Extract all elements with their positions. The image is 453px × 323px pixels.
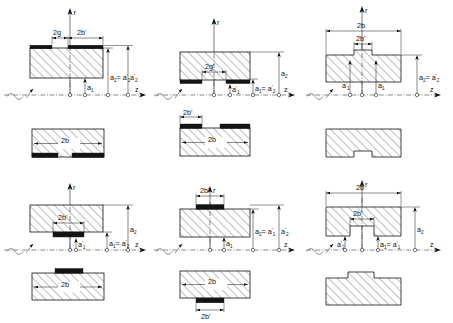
z-axis-arrow — [288, 248, 295, 253]
axis-node — [251, 248, 254, 251]
z-axis-label: z — [135, 85, 139, 94]
dim-2bprime-label: 2b' — [183, 108, 193, 117]
axis-node — [343, 248, 346, 251]
a2-label: a2 — [281, 69, 288, 79]
r-axis-label: r — [74, 8, 77, 17]
axis-node — [360, 248, 363, 251]
axis-node — [105, 248, 108, 251]
ac-source-icon — [156, 89, 182, 100]
a1prime-label: a'1 — [232, 85, 240, 95]
axis-node — [222, 248, 225, 251]
electrode-center — [53, 232, 84, 237]
electrode-left — [32, 153, 58, 158]
a2-eq-a1prime-label: a2= a'1 — [255, 227, 276, 237]
inner-2b-label: 2b — [61, 136, 69, 145]
axis-node — [68, 248, 71, 251]
figure-sheet: r z 2g 2b' a1 a2= a'1 a'2 r — [0, 0, 453, 323]
panel-r4c2: 2b 2b' — [152, 263, 304, 323]
a1-eq-a1prime-label: a1= a'1 — [380, 240, 401, 250]
a1-eq-a2prime-label: a1= a'2 — [255, 84, 276, 94]
r-axis-label: r — [213, 186, 216, 195]
axis-node — [126, 93, 129, 96]
panel-r4c3 — [304, 263, 453, 323]
ac-source-icon — [7, 244, 33, 255]
dim-2bprime-label: 2b' — [200, 186, 210, 195]
axis-node — [376, 248, 379, 251]
panel-r2c3 — [304, 112, 453, 177]
panel-r3c2: r z 2b' a1 a2= a'1 a'2 — [152, 172, 304, 267]
inner-2b-label: 2b — [208, 135, 216, 144]
r-axis-label: r — [217, 18, 220, 27]
panel-r1c1: r z 2g 2b' a1 a2= a'1 a'2 — [0, 0, 152, 112]
axis-node — [277, 93, 280, 96]
axis-node — [83, 93, 86, 96]
a2-eq-a2prime-label: a2= a'2 — [419, 73, 440, 83]
body-hatch — [326, 272, 401, 305]
panel-r3c1: r z 2b' a'1 a1= a'2 a2 — [0, 177, 152, 267]
dim-2bprime-label: 2b' — [77, 28, 87, 37]
axis-node — [106, 93, 109, 96]
a1-label: a1 — [378, 81, 385, 91]
a2prime-label: a'2 — [337, 240, 345, 250]
electrode-left — [30, 45, 52, 49]
axis-node — [415, 93, 418, 96]
electrode-left — [180, 80, 202, 84]
axis-node — [228, 93, 231, 96]
z-axis-label: z — [430, 240, 434, 249]
axis-node — [68, 93, 71, 96]
a2prime-label: a'2 — [130, 73, 138, 83]
axis-node — [208, 248, 211, 251]
dim-2bprime-label: 2b' — [58, 213, 68, 222]
a2prime-label: a'2 — [281, 227, 289, 237]
axis-node — [348, 93, 351, 96]
electrode-center — [55, 269, 83, 274]
panel-r1c3: r z 2b 2b' a'1 a1 a2= a'2 — [304, 0, 453, 112]
axis-node — [251, 93, 254, 96]
z-axis-arrow — [288, 93, 295, 98]
dim-2bprime-label: 2b' — [356, 34, 366, 43]
a2-label: a2 — [130, 225, 137, 235]
panel-r2c2: 2b' 2b — [152, 110, 304, 177]
panel-r3c3: r z 2b 2b' a'2 a1= a'1 a2 — [304, 172, 453, 267]
dim-2gprime-label: 2g' — [205, 62, 215, 71]
a1-label: a1 — [87, 83, 94, 93]
ac-source-icon — [156, 244, 182, 255]
axis-node — [277, 248, 280, 251]
electrode-center — [196, 298, 224, 303]
z-axis-arrow — [139, 248, 146, 253]
panel-r4c1: 2b — [0, 263, 152, 323]
z-axis-arrow — [139, 93, 146, 98]
panel-r2c1: 2b — [0, 112, 152, 177]
axis-node — [374, 93, 377, 96]
a2-label: a2 — [417, 225, 424, 235]
z-axis-label: z — [284, 85, 288, 94]
ac-source-icon — [7, 89, 33, 100]
dim-2bprime-label: 2b' — [353, 209, 363, 218]
dim-2b-label: 2b — [357, 21, 365, 30]
electrode-right — [68, 45, 103, 49]
dim-2bprime-label: 2b' — [201, 312, 211, 321]
z-axis-label: z — [430, 85, 434, 94]
r-axis-label: r — [365, 180, 368, 189]
body-hatch — [326, 207, 401, 236]
axis-node — [212, 93, 215, 96]
axis-node — [413, 248, 416, 251]
a1-label: a1 — [226, 239, 233, 249]
r-axis-label: r — [73, 183, 76, 192]
a2-eq-a1prime-label: a2= a'1 — [110, 73, 131, 83]
inner-2b-label: 2b — [61, 280, 69, 289]
axis-node — [126, 248, 129, 251]
z-axis-label: z — [284, 240, 288, 249]
electrode-right — [226, 80, 250, 84]
axis-node — [74, 248, 77, 251]
body-hatch — [180, 209, 250, 237]
panel-r1c2: r z 2g' a'1 a1= a'2 a2 — [152, 0, 304, 112]
a1prime-label: a'1 — [78, 240, 86, 250]
inner-2b-label: 2b — [208, 277, 216, 286]
body-hatch — [180, 52, 250, 80]
electrode-left — [180, 124, 202, 129]
ac-source-icon — [307, 89, 333, 100]
a1-eq-a2prime-label: a1= a'2 — [109, 239, 130, 249]
body-hatch — [326, 129, 401, 157]
r-axis-label: r — [365, 6, 368, 15]
